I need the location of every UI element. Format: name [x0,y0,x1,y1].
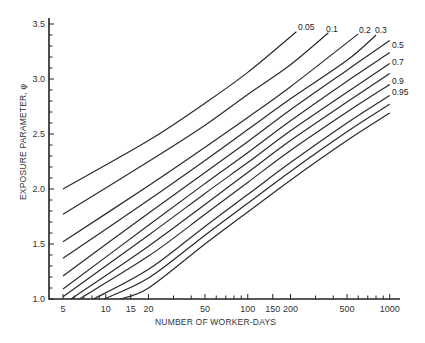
y-tick-label: 3.0 [32,74,45,84]
y-tick-label: 1.5 [32,239,45,249]
y-tick-label: 2.0 [32,184,45,194]
x-tick-label: 15 [126,304,136,314]
x-tick-label: 1000 [380,304,400,314]
curve-0.1 [63,33,328,215]
curves [63,32,390,299]
curve-0.6 [63,64,390,297]
x-tick-label: 50 [200,304,210,314]
curve-0.4 [63,41,390,276]
x-tick-label: 150 [265,304,280,314]
curve-label: 0.05 [298,22,315,32]
x-tick-label: 100 [240,304,255,314]
x-tick-label: 10 [101,304,111,314]
curve-label: 0.3 [375,25,387,35]
curve-label: 0.9 [392,76,404,86]
curve-0.9 [94,96,390,300]
curve-label: 0.95 [392,87,409,97]
x-axis-title: NUMBER OF WORKER-DAYS [155,317,276,327]
curve-0.05 [63,32,296,189]
curve-labels: 0.050.10.20.30.50.70.90.95 [298,22,409,97]
x-tick-label: 5 [60,304,65,314]
curve-label: 0.5 [392,40,404,50]
exposure-parameter-chart: 1.01.52.02.53.03.55101520501001502005001… [0,0,425,343]
curve-label: 0.2 [359,25,371,35]
curve-0.8 [79,85,390,300]
curve-label: 0.1 [326,24,338,34]
y-tick-label: 2.5 [32,129,45,139]
x-tick-label: 20 [143,304,153,314]
curve-label: 0.7 [392,57,404,67]
y-axis-title: EXPOSURE PARAMETER, φ [18,83,28,200]
x-tick-label: 500 [339,304,354,314]
curve-extra [120,113,390,299]
y-tick-label: 3.5 [32,19,45,29]
x-tick-label: 200 [283,304,298,314]
y-tick-label: 1.0 [32,294,45,304]
